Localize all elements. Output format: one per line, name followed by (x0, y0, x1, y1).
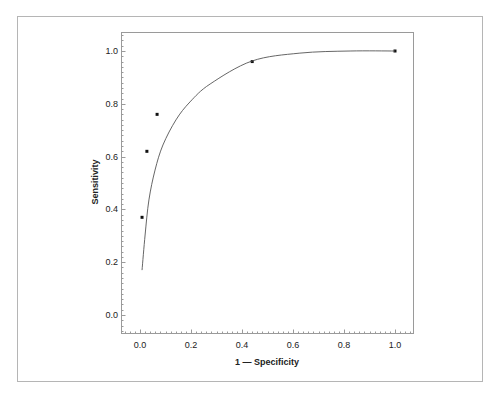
x-tick-label: 0.4 (236, 340, 249, 350)
y-tick-label: 0.0 (105, 310, 118, 320)
y-tick-label: 0.4 (105, 204, 118, 214)
x-tick-label: 0.0 (134, 340, 147, 350)
y-tick-label: 0.2 (105, 257, 118, 267)
roc-figure: 0.00.20.40.60.81.0 0.00.20.40.60.81.0 1 … (0, 0, 499, 394)
x-tick-label: 0.6 (287, 340, 300, 350)
x-tick-label: 0.2 (185, 340, 198, 350)
outer-frame (18, 17, 483, 382)
y-axis-label: Sensitivity (90, 159, 100, 204)
data-point-marker (141, 216, 144, 219)
x-tick-label: 1.0 (389, 340, 402, 350)
y-tick-label: 0.6 (105, 152, 118, 162)
data-point-marker (145, 150, 148, 153)
y-tick-label: 1.0 (105, 46, 118, 56)
data-point-marker (156, 113, 159, 116)
x-axis-label: 1 — Specificity (235, 357, 299, 367)
roc-chart: 0.00.20.40.60.81.0 0.00.20.40.60.81.0 1 … (0, 0, 499, 394)
y-tick-label: 0.8 (105, 99, 118, 109)
x-tick-label: 0.8 (338, 340, 351, 350)
